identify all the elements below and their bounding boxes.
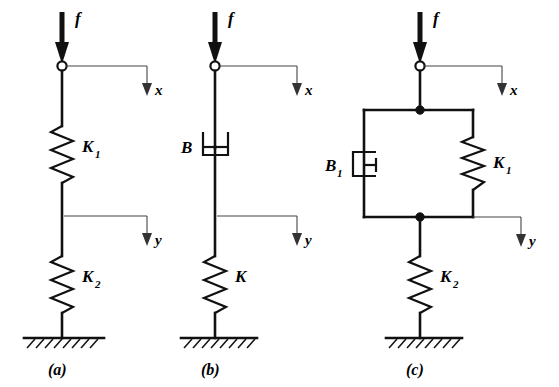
force-arrow-c bbox=[413, 12, 427, 64]
spring-b-k bbox=[204, 256, 226, 313]
panel-caption-a: (a) bbox=[48, 361, 67, 379]
force-arrow-b bbox=[208, 12, 222, 64]
damper-c-b1-subscript: 1 bbox=[337, 167, 343, 179]
spring-c-k2 bbox=[409, 256, 431, 313]
displacement-x-label-c: x bbox=[509, 82, 518, 98]
force-label-b: f bbox=[228, 9, 236, 28]
displacement-x-label-a: x bbox=[154, 82, 163, 98]
input-node-b bbox=[210, 61, 219, 70]
spring-c-k2-subscript: 2 bbox=[452, 278, 459, 290]
spring-a-k1 bbox=[51, 126, 73, 183]
spring-c-k1-label: K bbox=[492, 153, 506, 172]
displacement-x-c bbox=[424, 66, 507, 96]
spring-c-k1-subscript: 1 bbox=[506, 164, 512, 176]
ground-support-b bbox=[181, 338, 257, 348]
parallel-block-c bbox=[364, 110, 473, 217]
spring-a-k2 bbox=[51, 256, 73, 313]
displacement-y-label-b: y bbox=[303, 232, 312, 248]
panel-caption-b: (b) bbox=[201, 361, 220, 379]
ground-support-c bbox=[386, 338, 462, 348]
force-label-a: f bbox=[75, 9, 83, 28]
panel-a: f K 1 K 2 bbox=[24, 9, 163, 379]
spring-a-k2-label: K bbox=[81, 267, 95, 286]
ground-support-a bbox=[24, 338, 104, 348]
input-node-c bbox=[415, 61, 424, 70]
displacement-x-label-b: x bbox=[304, 82, 313, 98]
displacement-y-a bbox=[64, 216, 152, 246]
displacement-x-a bbox=[66, 66, 152, 96]
damper-c-b1-label: B bbox=[324, 156, 336, 175]
input-node-a bbox=[57, 61, 66, 70]
displacement-y-c bbox=[473, 217, 526, 247]
displacement-y-b bbox=[217, 216, 302, 246]
force-arrow-a bbox=[55, 12, 69, 64]
spring-c-k1 bbox=[462, 137, 484, 190]
displacement-y-label-a: y bbox=[153, 232, 162, 248]
junction-node-top-c bbox=[416, 106, 424, 114]
spring-a-k2-subscript: 2 bbox=[94, 278, 101, 290]
force-label-c: f bbox=[433, 9, 441, 28]
panel-c: f B 1 K 1 bbox=[324, 9, 536, 379]
panel-b: f B K bbox=[180, 9, 313, 379]
damper-b-label: B bbox=[180, 138, 192, 157]
spring-a-k1-label: K bbox=[81, 137, 95, 156]
spring-a-k1-subscript: 1 bbox=[95, 148, 101, 160]
spring-c-k2-label: K bbox=[439, 267, 453, 286]
mechanical-systems-figure: f K 1 K 2 bbox=[0, 0, 559, 387]
displacement-y-label-c: y bbox=[527, 233, 536, 249]
spring-b-k-label: K bbox=[234, 267, 248, 286]
displacement-x-b bbox=[219, 66, 302, 96]
panel-caption-c: (c) bbox=[406, 361, 424, 379]
